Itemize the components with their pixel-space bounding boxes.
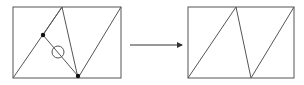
right-line [251, 7, 294, 78]
right-figure [188, 7, 294, 78]
left-rectangle [13, 7, 121, 78]
right-line [188, 7, 236, 78]
left-line [43, 7, 62, 35]
left-point-dot [41, 33, 45, 37]
right-rectangle [188, 7, 294, 78]
left-point-dot [76, 74, 80, 78]
left-figure [13, 7, 121, 78]
right-line [236, 7, 251, 78]
diagram-canvas [0, 0, 304, 85]
left-line [78, 7, 121, 78]
